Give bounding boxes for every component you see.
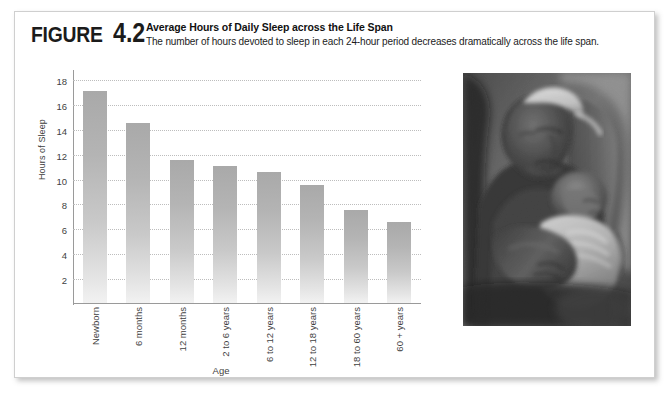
x-tick-label: 6 to 12 years — [263, 307, 274, 362]
x-tick-label: 6 months — [133, 307, 144, 346]
bar-slot: 2 to 6 years — [204, 69, 248, 303]
bar-slot: 6 to 12 years — [247, 69, 291, 303]
bar[interactable] — [344, 210, 368, 303]
bar[interactable] — [257, 172, 281, 303]
y-axis-title: Hours of Sleep — [37, 119, 47, 180]
figure-header: Figure 4.2 Average Hours of Daily Sleep … — [15, 12, 654, 62]
x-tick-label: 18 to 60 years — [350, 307, 361, 367]
chart-area: Hours of Sleep 24681012141618 Newborn6 m… — [21, 60, 431, 372]
photo-image — [463, 73, 631, 326]
figure-panel: Figure 4.2 Average Hours of Daily Sleep … — [14, 11, 655, 378]
x-axis-title: Age — [213, 365, 230, 376]
y-tick-label: 14 — [56, 125, 67, 136]
bar[interactable] — [83, 91, 107, 303]
bar-slot: 18 to 60 years — [334, 69, 378, 303]
x-tick-label: 2 to 6 years — [220, 307, 231, 357]
x-tick-label: Newborn — [89, 307, 100, 345]
bar-slot: Newborn — [73, 69, 117, 303]
bar[interactable] — [126, 123, 150, 303]
x-tick-label: 12 months — [176, 307, 187, 351]
y-tick-label: 8 — [62, 200, 67, 211]
figure-label-word: Figure — [31, 22, 103, 48]
x-tick-label: 60 + years — [394, 307, 405, 352]
sleeping-father-and-infant-photo — [463, 73, 631, 326]
bar-slot: 60 + years — [378, 69, 422, 303]
y-tick-label: 18 — [56, 75, 67, 86]
y-tick-label: 4 — [62, 250, 67, 261]
y-tick-label: 16 — [56, 100, 67, 111]
plot-area: 24681012141618 Newborn6 months12 months2… — [73, 70, 421, 304]
figure-label-number: 4.2 — [113, 18, 145, 49]
x-tick-label: 12 to 18 years — [307, 307, 318, 367]
bar-slot: 12 months — [160, 69, 204, 303]
bar[interactable] — [300, 185, 324, 303]
figure-subtitle: The number of hours devoted to sleep in … — [146, 36, 599, 47]
bar-slot: 12 to 18 years — [291, 69, 335, 303]
bar[interactable] — [387, 222, 411, 303]
y-tick-label: 2 — [62, 275, 67, 286]
y-tick-label: 12 — [56, 150, 67, 161]
figure-number-block: Figure 4.2 — [31, 18, 151, 49]
y-tick-label: 10 — [56, 175, 67, 186]
bar[interactable] — [213, 166, 237, 303]
figure-title: Average Hours of Daily Sleep across the … — [146, 21, 393, 33]
bar-series: Newborn6 months12 months2 to 6 years6 to… — [73, 69, 421, 303]
figure-root: Figure 4.2 Average Hours of Daily Sleep … — [0, 0, 671, 398]
bar-slot: 6 months — [117, 69, 161, 303]
y-tick-label: 6 — [62, 225, 67, 236]
bar[interactable] — [170, 160, 194, 303]
